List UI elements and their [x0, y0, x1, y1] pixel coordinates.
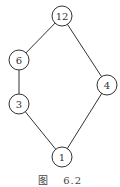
node-label-6: 6 — [16, 55, 22, 66]
caption-number: 6.2 — [63, 175, 82, 186]
hasse-diagram: 12 6 4 3 1 — [0, 0, 120, 187]
node-label-3: 3 — [16, 99, 22, 110]
node-label-4: 4 — [104, 80, 110, 91]
figure-caption: 图 6.2 — [0, 172, 120, 187]
edge-4-1 — [62, 85, 107, 157]
node-label-12: 12 — [56, 11, 69, 22]
edge-12-4 — [62, 16, 107, 85]
node-label-1: 1 — [59, 152, 65, 163]
caption-prefix: 图 — [38, 175, 49, 186]
